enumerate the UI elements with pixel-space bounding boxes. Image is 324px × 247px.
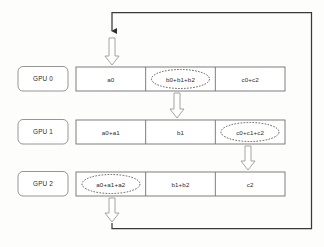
block-arrow-gpu1-to-gpu2 (241, 146, 255, 170)
data-row-box-0 (76, 67, 285, 91)
diagram-vector-layer (0, 0, 324, 247)
block-arrow-into-gpu0 (105, 38, 119, 65)
block-arrow-gpu0-to-gpu1 (170, 93, 184, 118)
gpu-label-box-2 (18, 172, 68, 197)
data-row-box-2 (76, 172, 285, 196)
diagram-canvas: GPU 0 a0 b0+b1+b2 c0+c2 GPU 1 a0+a1 b1 c… (0, 0, 324, 247)
gpu-label-box-0 (18, 67, 68, 92)
block-arrow-gpu2-to-loop (105, 198, 119, 222)
gpu-label-box-1 (18, 120, 68, 145)
data-row-box-1 (76, 120, 285, 144)
